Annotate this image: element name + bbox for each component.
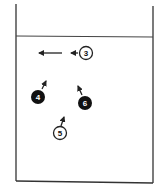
- marker-label: 5: [58, 129, 63, 138]
- marker-label: 4: [36, 93, 41, 102]
- marker-6: 6: [78, 86, 92, 110]
- marker-4: 4: [31, 81, 46, 104]
- arrow-icon: [78, 86, 82, 95]
- container-bottom: [16, 181, 153, 183]
- marker-label: 3: [84, 49, 89, 58]
- marker-5: 5: [54, 117, 67, 140]
- marker-label: 6: [83, 99, 88, 108]
- container-diagram: 3 4 6 5: [0, 0, 165, 194]
- arrow-icon: [61, 117, 64, 126]
- marker-3: 3: [71, 47, 93, 60]
- water-surface-line: [16, 36, 153, 37]
- arrow-icon: [42, 81, 46, 89]
